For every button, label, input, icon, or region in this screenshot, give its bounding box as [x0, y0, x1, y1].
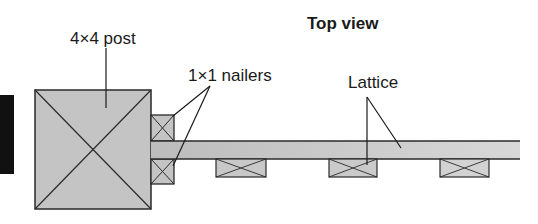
lattice-strip: [151, 141, 520, 159]
nailer-bottom: [151, 159, 174, 184]
dark-edge-bar: [0, 95, 14, 174]
lattice-block-3: [440, 159, 489, 177]
nailer-top: [151, 115, 174, 141]
nailers-label: 1×1 nailers: [188, 67, 272, 84]
post-label: 4×4 post: [70, 30, 136, 47]
lattice-block-1: [216, 159, 266, 177]
nailers-leader-line-top: [173, 86, 210, 116]
diagram-title: Top view: [307, 15, 378, 32]
lattice-label: Lattice: [348, 74, 398, 91]
lattice-block-2: [329, 159, 377, 177]
post-4x4: [35, 90, 151, 209]
